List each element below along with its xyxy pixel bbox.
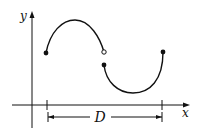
bracket-left-arrow-icon [48,115,54,119]
y-axis-label: y [19,9,27,23]
y-axis-arrow-icon [30,11,35,18]
function-graph: y x D [0,0,197,131]
x-axis-label: x [182,106,189,120]
domain-label: D [93,109,105,125]
left-endpoint-filled-dot [44,51,49,56]
jump-filled-dot [102,63,107,68]
bracket-right-arrow-icon [156,115,162,119]
right-endpoint-filled-dot [161,50,166,55]
curve-right-arc [104,52,163,93]
jump-open-circle [102,50,106,54]
curve-left-arc [46,20,104,53]
